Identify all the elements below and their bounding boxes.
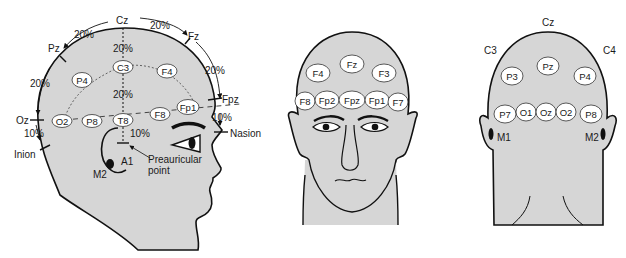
back-view: Cz C3 C4 M1 M2 Pz P3 P4 P7 O1 Oz O2 P8	[480, 17, 616, 225]
back-electrode-pz: Pz	[542, 61, 553, 72]
back-label-c3: C3	[484, 45, 497, 56]
side-electrode-p4: P4	[76, 75, 88, 86]
preauricular-label: Preauricular	[148, 154, 203, 165]
side-electrode-o2: O2	[56, 116, 69, 127]
side-label-pz: Pz	[48, 43, 60, 54]
side-label-nasion: Nasion	[230, 128, 261, 139]
pct-oz-pz: 20%	[30, 78, 50, 89]
pct-c3-t8: 20%	[113, 89, 133, 100]
side-view: Cz Pz Fz Fpz Oz Inion Nasion A1 M2 Preau…	[14, 15, 261, 250]
back-label-c4: C4	[603, 45, 616, 56]
m2-mastoid-marker	[106, 159, 114, 169]
pct-cz-c3: 20%	[113, 43, 133, 54]
back-label-cz: Cz	[542, 17, 554, 28]
side-electrode-fp1: Fp1	[180, 102, 196, 113]
side-label-a1: A1	[121, 156, 134, 167]
side-label-m2: M2	[93, 169, 107, 180]
pct-inion-oz: 10%	[24, 128, 44, 139]
m2-mastoid-marker	[601, 128, 606, 140]
pct-cz-fz: 20%	[150, 20, 170, 31]
side-label-inion: Inion	[14, 149, 36, 160]
back-label-m2: M2	[585, 132, 599, 143]
back-electrode-o1: O1	[520, 107, 533, 118]
front-electrode-fz: Fz	[347, 59, 358, 70]
side-electrode-f4: F4	[161, 66, 172, 77]
back-electrode-oz: Oz	[540, 107, 552, 118]
back-electrode-p7: P7	[499, 109, 511, 120]
side-label-fpz: Fpz	[222, 94, 239, 105]
back-label-m1: M1	[497, 132, 511, 143]
pct-t8-preauricular: 10%	[130, 128, 150, 139]
front-electrode-fp2: Fp2	[319, 95, 335, 106]
front-electrode-f3: F3	[378, 68, 389, 79]
back-electrode-p4: P4	[579, 71, 591, 82]
side-label-cz: Cz	[116, 15, 128, 26]
back-electrode-p3: P3	[506, 71, 518, 82]
side-electrode-c3: C3	[117, 62, 129, 73]
side-label-oz: Oz	[16, 115, 29, 126]
front-electrode-fp1: Fp1	[369, 95, 385, 106]
side-electrode-f8: F8	[154, 109, 165, 120]
front-view: Fz F4 F3 F8 Fp2 Fpz Fp1 F7	[288, 32, 417, 225]
back-electrode-o2: O2	[560, 107, 573, 118]
m1-mastoid-marker	[489, 128, 494, 140]
side-electrode-p8: P8	[86, 116, 98, 127]
side-label-fz: Fz	[188, 31, 199, 42]
front-electrode-f4: F4	[312, 68, 323, 79]
back-electrode-p8: P8	[585, 109, 597, 120]
pct-fpz-nasion: 10%	[212, 112, 232, 123]
pct-pz-cz: 20%	[74, 29, 94, 40]
front-electrode-fpz: Fpz	[344, 95, 360, 106]
front-electrode-f8: F8	[299, 96, 310, 107]
front-electrode-f7: F7	[392, 97, 403, 108]
pct-fz-fpz: 20%	[205, 65, 225, 76]
eeg-10-20-diagram: Cz Pz Fz Fpz Oz Inion Nasion A1 M2 Preau…	[0, 0, 626, 258]
point-label: point	[148, 165, 170, 176]
side-electrode-t8: T8	[117, 115, 128, 126]
